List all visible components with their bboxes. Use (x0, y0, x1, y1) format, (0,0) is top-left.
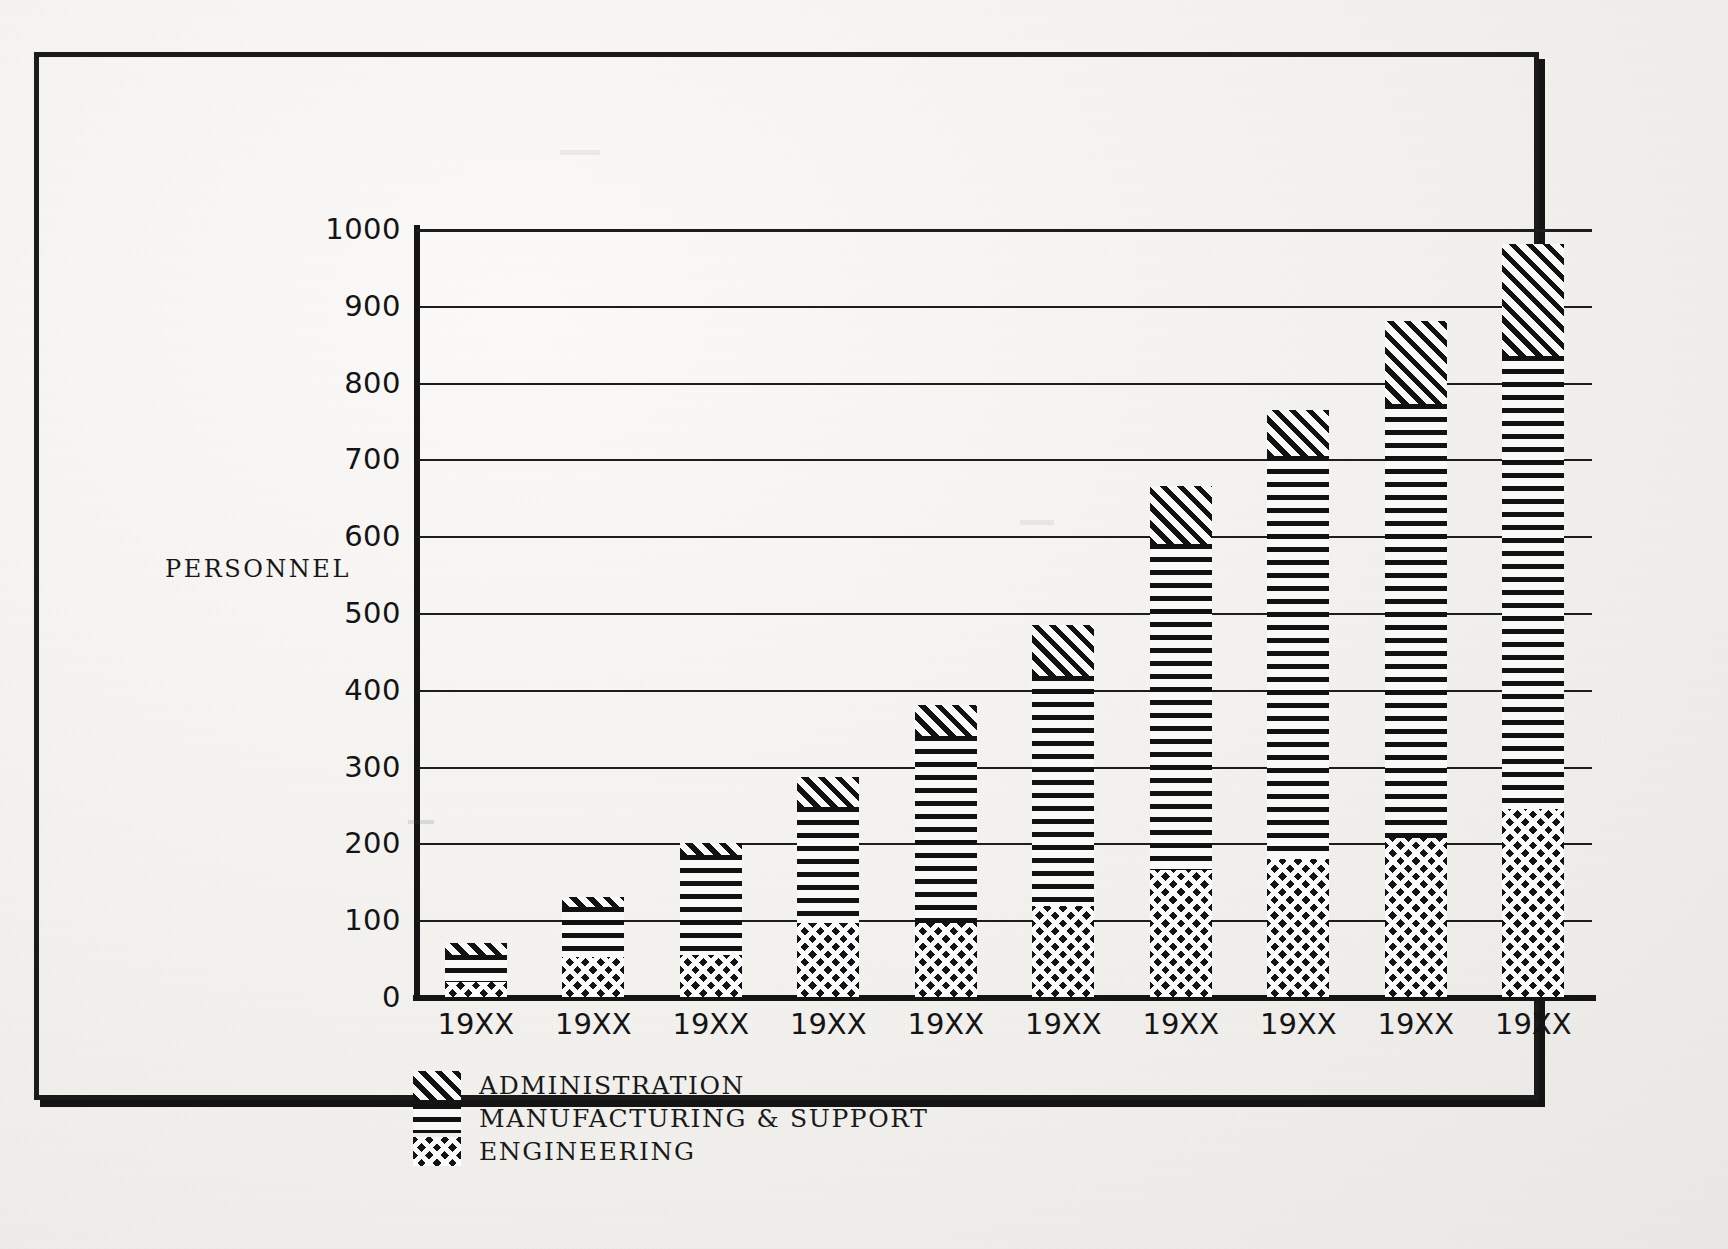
y-tick-label: 900 (344, 289, 401, 323)
legend: ADMINISTRATIONMANUFACTURING & SUPPORTENG… (413, 1069, 929, 1168)
bar-stack (1032, 625, 1094, 997)
bar-segment-administration (562, 897, 624, 907)
bar-segment-manufacturing-support (797, 807, 859, 922)
bar-segment-administration (1032, 625, 1094, 676)
bar-stack (445, 943, 507, 997)
bar-segment-manufacturing-support (1032, 676, 1094, 906)
bar-stack (1502, 244, 1564, 997)
bar-segment-manufacturing-support (1385, 404, 1447, 838)
bar-segment-manufacturing-support (915, 736, 977, 923)
x-tick-label: 19XX (1495, 1007, 1572, 1041)
bar-segment-manufacturing-support (562, 907, 624, 957)
legend-swatch-icon (413, 1071, 461, 1100)
y-tick-label: 700 (344, 442, 401, 476)
bar-segment-engineering (915, 923, 977, 997)
x-tick-label: 19XX (1260, 1007, 1337, 1041)
bar-segment-engineering (1032, 906, 1094, 997)
plot-area: 01002003004005006007008009001000 19XX19X… (417, 229, 1592, 997)
bar-stack (1150, 486, 1212, 997)
bar-segment-administration (445, 943, 507, 955)
bar-stack (797, 777, 859, 997)
y-tick-label: 100 (344, 903, 401, 937)
bar-segment-manufacturing-support (445, 955, 507, 982)
legend-swatch-icon (413, 1104, 461, 1133)
figure-frame: PERSONNEL 010020030040050060070080090010… (34, 52, 1539, 1100)
legend-item: MANUFACTURING & SUPPORT (413, 1102, 929, 1135)
legend-item: ADMINISTRATION (413, 1069, 929, 1102)
bar-segment-engineering (1267, 859, 1329, 997)
legend-item: ENGINEERING (413, 1135, 929, 1168)
bar-segment-engineering (1502, 809, 1564, 997)
bar-segment-engineering (680, 955, 742, 997)
y-axis-title: PERSONNEL (165, 555, 351, 583)
bar-segment-engineering (797, 923, 859, 997)
bar-segment-administration (1150, 486, 1212, 544)
y-tick-label: 0 (382, 980, 401, 1014)
bar-stack (1385, 321, 1447, 997)
x-tick-label: 19XX (790, 1007, 867, 1041)
bar-segment-administration (1502, 244, 1564, 355)
x-tick-label: 19XX (1377, 1007, 1454, 1041)
y-tick-label: 600 (344, 519, 401, 553)
bar-segment-manufacturing-support (1267, 456, 1329, 859)
x-tick-label: 19XX (672, 1007, 749, 1041)
legend-item-label: MANUFACTURING & SUPPORT (479, 1104, 929, 1133)
bar-segment-engineering (562, 957, 624, 997)
legend-item-label: ENGINEERING (479, 1137, 696, 1166)
x-tick-label: 19XX (1025, 1007, 1102, 1041)
bar-stack (1267, 410, 1329, 998)
bar-segment-engineering (445, 982, 507, 997)
bar-segment-engineering (1150, 870, 1212, 997)
bar-segment-manufacturing-support (1150, 544, 1212, 870)
bar-stack (680, 843, 742, 997)
bar-segment-manufacturing-support (680, 855, 742, 955)
x-tick-label: 19XX (437, 1007, 514, 1041)
bar-segment-engineering (1385, 838, 1447, 997)
gridline (417, 306, 1592, 308)
bar-segment-administration (1385, 321, 1447, 404)
y-tick-label: 1000 (325, 212, 401, 246)
x-tick-label: 19XX (1142, 1007, 1219, 1041)
y-tick-label: 200 (344, 826, 401, 860)
bar-segment-administration (1267, 410, 1329, 456)
bar-segment-manufacturing-support (1502, 356, 1564, 809)
legend-swatch-icon (413, 1137, 461, 1166)
bar-segment-administration (915, 705, 977, 736)
legend-item-label: ADMINISTRATION (479, 1071, 745, 1100)
bar-segment-administration (797, 777, 859, 808)
x-tick-label: 19XX (907, 1007, 984, 1041)
bar-stack (562, 897, 624, 997)
bar-stack (915, 705, 977, 997)
y-tick-label: 400 (344, 673, 401, 707)
y-tick-label: 500 (344, 596, 401, 630)
bar-segment-administration (680, 843, 742, 855)
y-tick-label: 800 (344, 366, 401, 400)
y-tick-label: 300 (344, 750, 401, 784)
x-tick-label: 19XX (555, 1007, 632, 1041)
gridline (417, 229, 1592, 232)
